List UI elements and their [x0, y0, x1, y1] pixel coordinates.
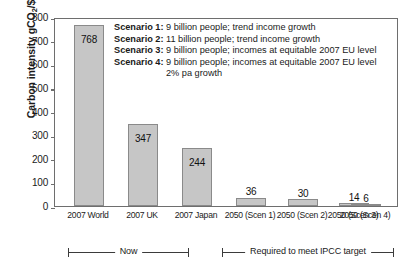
legend-line: Scenario 3:9 billion people; incomes at …: [114, 45, 376, 57]
y-axis-tick-mark: [51, 66, 55, 67]
legend-scenario-key: Scenario 2:: [114, 34, 166, 46]
bar: [236, 198, 266, 207]
bar-value-label: 30: [279, 188, 327, 199]
y-axis-tick-label: 200: [32, 154, 48, 165]
y-axis-tick-label: 700: [32, 36, 48, 47]
bracket-annotation: Required to meet IPCC target: [222, 248, 394, 258]
legend-scenario-key: Scenario 3:: [114, 45, 166, 57]
y-axis-tick-label: 300: [32, 130, 48, 141]
y-axis-tick-label: 500: [32, 83, 48, 94]
legend-scenario-text: 11 billion people; trend income growth: [166, 34, 320, 44]
y-axis-tick-mark: [51, 160, 55, 161]
y-axis-tick-label: 100: [32, 177, 48, 188]
scenario-legend: Scenario 1:9 billion people; trend incom…: [114, 22, 376, 80]
legend-continuation-line: 2% pa growth: [114, 68, 376, 80]
bar-value-label: 6: [342, 193, 390, 204]
legend-scenario-text: 9 billion people; trend income growth: [166, 22, 316, 32]
bracket-cap-right: [393, 248, 394, 257]
bracket-label: Now: [115, 246, 143, 256]
y-axis-tick-mark: [51, 19, 55, 20]
y-axis-tick-mark: [51, 184, 55, 185]
legend-scenario-text: 9 billion people; incomes at equitable 2…: [166, 57, 376, 67]
legend-line: Scenario 2:11 billion people; trend inco…: [114, 34, 376, 46]
bracket-annotation: Now: [68, 248, 189, 258]
bar: [74, 25, 104, 206]
y-axis-tick-label: 800: [32, 12, 48, 23]
y-axis-tick-mark: [51, 42, 55, 43]
y-axis-tick-mark: [51, 208, 55, 209]
legend-scenario-key: Scenario 1:: [114, 22, 166, 34]
bar-value-label: 36: [227, 186, 275, 197]
chart-canvas: Carbon intensity gCO2/$ 0100200300400500…: [0, 0, 420, 268]
bar-value-label: 244: [173, 157, 221, 168]
legend-line: Scenario 4:9 billion people; incomes at …: [114, 57, 376, 69]
bar-value-label: 347: [119, 133, 167, 144]
legend-continuation-text: 2% pa growth: [114, 68, 222, 80]
bracket-cap-right: [188, 248, 189, 257]
legend-scenario-key: Scenario 4:: [114, 57, 166, 69]
bracket-label: Required to meet IPCC target: [245, 246, 371, 256]
bracket-cap-left: [222, 248, 223, 257]
y-axis-tick-mark: [51, 137, 55, 138]
y-axis-tick-label: 600: [32, 59, 48, 70]
bar-value-label: 768: [65, 34, 113, 45]
y-axis-tick-mark: [51, 89, 55, 90]
legend-line: Scenario 1:9 billion people; trend incom…: [114, 22, 376, 34]
bar: [288, 199, 318, 206]
y-axis-tick-label: 400: [32, 107, 48, 118]
y-axis-tick-mark: [51, 113, 55, 114]
x-axis-label: 2050 (Scen 4): [325, 210, 405, 220]
legend-scenario-text: 9 billion people; incomes at equitable 2…: [166, 45, 376, 55]
bracket-cap-left: [68, 248, 69, 257]
